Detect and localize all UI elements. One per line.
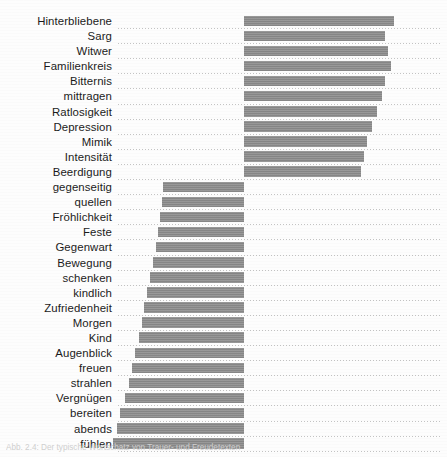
chart-row: abends [0,422,447,437]
bar [139,332,244,343]
bar [120,408,244,419]
chart-row: Sarg [0,29,447,44]
category-label: abends [0,422,112,436]
bar [244,136,367,147]
category-label: Beerdigung [0,165,112,179]
bar [244,46,388,57]
bar [125,393,244,404]
chart-row: bereiten [0,406,447,421]
bar [244,76,385,87]
bar [144,302,244,313]
bar [156,242,244,253]
chart-row: Ratlosigkeit [0,105,447,120]
bar [244,16,394,27]
category-label: Intensität [0,150,112,164]
chart-row: Feste [0,225,447,240]
chart-row: Vergnügen [0,391,447,406]
bar [150,272,244,283]
chart-row: Depression [0,120,447,135]
category-label: Kind [0,331,112,345]
bar [160,212,244,223]
category-label: Zufriedenheit [0,301,112,315]
category-label: Augenblick [0,346,112,360]
bar-chart: HinterbliebeneSargWitwerFamilienkreisBit… [0,0,447,457]
bar [244,91,382,102]
chart-row: Familienkreis [0,59,447,74]
bar [135,348,244,359]
category-label: schenken [0,271,112,285]
chart-row: Fröhlichkeit [0,210,447,225]
category-label: Gegenwart [0,240,112,254]
chart-row: quellen [0,195,447,210]
chart-row: kindlich [0,286,447,301]
category-label: Bitternis [0,74,112,88]
chart-row: Witwer [0,44,447,59]
bar [142,317,244,328]
category-label: Mimik [0,135,112,149]
bar [158,227,244,238]
bar [147,287,244,298]
bar [163,182,244,193]
bar [244,151,364,162]
chart-row: Kind [0,331,447,346]
bar [244,31,385,42]
category-label: Hinterbliebene [0,14,112,28]
category-label: Depression [0,120,112,134]
chart-row: strahlen [0,376,447,391]
bar [244,106,377,117]
category-label: gegenseitig [0,180,112,194]
bar [244,166,361,177]
bar [117,423,244,434]
bar [244,61,391,72]
chart-row: mittragen [0,89,447,104]
chart-row: Bitternis [0,74,447,89]
bar [132,363,244,374]
bar [244,121,372,132]
chart-row: schenken [0,271,447,286]
chart-row: freuen [0,361,447,376]
category-label: quellen [0,195,112,209]
chart-row: gegenseitig [0,180,447,195]
category-label: mittragen [0,89,112,103]
category-label: Vergnügen [0,391,112,405]
category-label: Witwer [0,44,112,58]
bar [129,378,244,389]
chart-row: Zufriedenheit [0,301,447,316]
bar [162,197,244,208]
category-label: Morgen [0,316,112,330]
chart-row: Bewegung [0,256,447,271]
chart-row: Hinterbliebene [0,14,447,29]
chart-row: Augenblick [0,346,447,361]
category-label: Feste [0,225,112,239]
chart-row: Morgen [0,316,447,331]
bar [153,257,244,268]
category-label: kindlich [0,286,112,300]
category-label: bereiten [0,406,112,420]
category-label: Sarg [0,29,112,43]
chart-row: Beerdigung [0,165,447,180]
chart-row: Intensität [0,150,447,165]
category-label: Bewegung [0,256,112,270]
category-label: Fröhlichkeit [0,210,112,224]
chart-row: Gegenwart [0,240,447,255]
category-label: strahlen [0,376,112,390]
chart-row: Mimik [0,135,447,150]
category-label: Familienkreis [0,59,112,73]
category-label: Ratlosigkeit [0,105,112,119]
plot-area: HinterbliebeneSargWitwerFamilienkreisBit… [0,14,447,442]
category-label: freuen [0,361,112,375]
figure-caption: Abb. 2.4: Der typische Wortschatz von Tr… [6,443,441,453]
